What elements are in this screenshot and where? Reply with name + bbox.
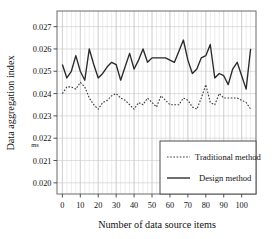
x-tick-label: 60	[166, 201, 174, 210]
y-tick-label: 0.025	[33, 67, 52, 76]
y-tick-label: 0.024	[33, 90, 53, 99]
x-tick-label: 70	[184, 201, 192, 210]
x-tick-label: 10	[76, 201, 84, 210]
x-axis-title: Number of data source items	[98, 219, 216, 230]
y-tick-label: 0.020	[33, 179, 52, 188]
y-axis-unit-label: ms	[31, 141, 39, 148]
x-tick-label: 20	[94, 201, 102, 210]
x-axis-ticks: 0102030405060708090100	[60, 194, 248, 210]
line-chart: 0.0200.0210.0220.0230.0240.0250.0260.027…	[0, 0, 274, 239]
x-tick-label: 0	[60, 201, 64, 210]
legend-label-design: Design method	[199, 173, 252, 183]
y-axis-title: Data aggregation index	[5, 55, 16, 150]
y-tick-label: 0.021	[33, 157, 52, 166]
legend-label-traditional: Traditional method	[195, 152, 262, 162]
figure-container: 0.0200.0210.0220.0230.0240.0250.0260.027…	[0, 0, 274, 239]
legend-frame	[160, 141, 256, 194]
legend-box: Traditional method Design method	[160, 141, 262, 194]
x-tick-label: 40	[130, 201, 138, 210]
y-tick-label: 0.026	[33, 45, 52, 54]
x-tick-label: 100	[235, 201, 247, 210]
x-tick-label: 30	[112, 201, 120, 210]
x-tick-label: 90	[220, 201, 228, 210]
y-tick-label: 0.023	[33, 112, 52, 121]
y-axis-ticks: 0.0200.0210.0220.0230.0240.0250.0260.027	[33, 23, 57, 188]
x-tick-label: 80	[202, 201, 210, 210]
y-tick-label: 0.027	[33, 23, 52, 32]
x-tick-label: 50	[148, 201, 156, 210]
